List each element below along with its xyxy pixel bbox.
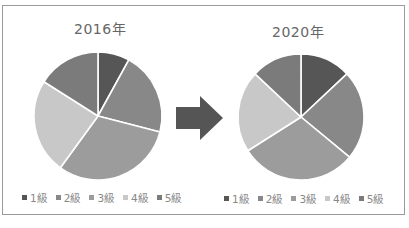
legend-label: 3級 bbox=[299, 191, 316, 206]
legend-swatch-icon bbox=[89, 195, 94, 200]
legend-item-3: 3級 bbox=[291, 191, 316, 206]
legend-item-1: 1級 bbox=[224, 191, 249, 206]
legend-label: 4級 bbox=[131, 190, 148, 205]
legend-swatch-icon bbox=[22, 195, 27, 200]
legend-swatch-icon bbox=[56, 195, 61, 200]
legend-label: 1級 bbox=[232, 191, 249, 206]
legend-swatch-icon bbox=[258, 196, 263, 201]
legend-item-3: 3級 bbox=[89, 190, 114, 205]
legend-label: 2級 bbox=[266, 191, 283, 206]
legend-item-4: 4級 bbox=[325, 191, 350, 206]
legend-item-2: 2級 bbox=[258, 191, 283, 206]
legend-item-5: 5級 bbox=[157, 190, 182, 205]
legend-item-4: 4級 bbox=[123, 190, 148, 205]
legend-swatch-icon bbox=[291, 196, 296, 201]
legend-2020: 1級 2級 3級 4級 5級 bbox=[224, 191, 383, 206]
legend-item-2: 2級 bbox=[56, 190, 81, 205]
legend-swatch-icon bbox=[325, 196, 330, 201]
right-arrow-icon bbox=[176, 96, 224, 140]
legend-swatch-icon bbox=[359, 196, 364, 201]
legend-label: 5級 bbox=[165, 190, 182, 205]
legend-label: 5級 bbox=[367, 191, 384, 206]
legend-label: 3級 bbox=[97, 190, 114, 205]
legend-item-5: 5級 bbox=[359, 191, 384, 206]
legend-label: 4級 bbox=[333, 191, 350, 206]
legend-label: 1級 bbox=[30, 190, 47, 205]
legend-2016: 1級 2級 3級 4級 5級 bbox=[22, 190, 181, 205]
legend-swatch-icon bbox=[224, 196, 229, 201]
legend-swatch-icon bbox=[157, 195, 162, 200]
legend-swatch-icon bbox=[123, 195, 128, 200]
legend-item-1: 1級 bbox=[22, 190, 47, 205]
legend-label: 2級 bbox=[64, 190, 81, 205]
